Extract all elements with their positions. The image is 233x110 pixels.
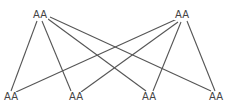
node-bottom-2: AA xyxy=(68,92,84,102)
node-bottom-4: AA xyxy=(208,92,224,102)
edge-t1-b2 xyxy=(42,21,71,91)
edge-t2-b2 xyxy=(81,22,178,92)
node-top-left: AA xyxy=(32,10,48,20)
node-top-right: AA xyxy=(174,10,190,20)
node-bottom-3: AA xyxy=(141,92,157,102)
edge-t2-b4 xyxy=(187,21,215,91)
edge-t2-b3 xyxy=(153,22,181,91)
edge-t1-b1 xyxy=(11,21,37,91)
node-bottom-1: AA xyxy=(3,92,19,102)
